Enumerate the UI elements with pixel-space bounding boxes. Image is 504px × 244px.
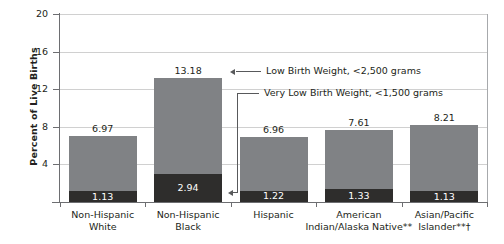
category-label-4: Asian/PacificIslander**† — [384, 209, 504, 232]
very-low-birth-weight-leader-vertical — [237, 93, 238, 192]
bar-value-label-total-4: 8.21 — [404, 112, 484, 123]
very-low-birth-weight-arrowhead — [228, 190, 233, 196]
x-tick-mark-5 — [487, 202, 488, 207]
low-birth-weight-bar-chart: Percent of Live Births 20161284 6.971.13… — [0, 0, 504, 244]
bar-value-label-very-low-2: 1.22 — [234, 190, 314, 201]
category-label-line2-1: Black — [128, 221, 248, 233]
bar-segment-low-birth-weight-4 — [410, 125, 478, 192]
very-low-birth-weight-leader-horizontal-bottom — [233, 192, 238, 193]
very-low-birth-weight-leader-horizontal-top — [237, 93, 259, 94]
low-birth-weight-leader-line — [236, 71, 261, 72]
x-tick-mark-1 — [145, 202, 146, 207]
low-birth-weight-arrowhead — [230, 69, 235, 75]
y-tick-label-4: 4 — [0, 158, 48, 169]
y-tick-mark-20 — [53, 14, 60, 15]
y-tick-label-16: 16 — [0, 46, 48, 57]
y-tick-label-20: 20 — [0, 8, 48, 19]
annotation-low-birth-weight: Low Birth Weight, <2,500 grams — [266, 65, 421, 76]
bar-value-label-very-low-4: 1.13 — [404, 191, 484, 202]
y-tick-mark-4 — [53, 164, 60, 165]
annotation-very-low-birth-weight: Very Low Birth Weight, <1,500 grams — [264, 87, 443, 98]
category-label-line2-4: Islander**† — [384, 221, 504, 233]
plot-right-border — [487, 14, 488, 202]
y-tick-mark-16 — [53, 52, 60, 53]
bar-value-label-total-3: 7.61 — [319, 117, 399, 128]
bar-value-label-total-2: 6.96 — [234, 124, 314, 135]
gridline-16 — [60, 52, 487, 53]
bar-segment-low-birth-weight-0 — [69, 136, 137, 191]
y-tick-label-12: 12 — [0, 83, 48, 94]
bar-segment-low-birth-weight-2 — [240, 137, 308, 191]
x-tick-mark-2 — [231, 202, 232, 207]
bar-value-label-total-1: 13.18 — [148, 65, 228, 76]
bar-value-label-very-low-3: 1.33 — [319, 190, 399, 201]
category-label-line1-4: Asian/Pacific — [384, 209, 504, 221]
bar-segment-low-birth-weight-1 — [154, 78, 222, 174]
bar-segment-low-birth-weight-3 — [325, 130, 393, 189]
y-tick-mark-8 — [53, 127, 60, 128]
x-tick-mark-3 — [316, 202, 317, 207]
x-axis-line — [52, 202, 488, 203]
gridline-20 — [60, 14, 487, 15]
x-tick-mark-4 — [402, 202, 403, 207]
bar-value-label-very-low-0: 1.13 — [63, 191, 143, 202]
bar-value-label-total-0: 6.97 — [63, 123, 143, 134]
x-tick-mark-0 — [60, 202, 61, 207]
y-tick-mark-12 — [53, 89, 60, 90]
bar-value-label-very-low-1: 2.94 — [148, 182, 228, 193]
y-tick-label-8: 8 — [0, 121, 48, 132]
